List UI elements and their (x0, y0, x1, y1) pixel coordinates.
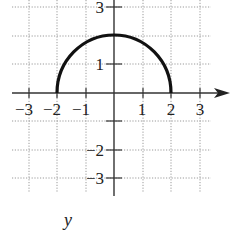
y-tick-label: 1 (96, 55, 105, 74)
x-tick-label: −2 (43, 100, 61, 119)
y-tick-label: −2 (86, 141, 104, 160)
x-tick-label: −3 (15, 100, 33, 119)
caption-variable: y (62, 210, 72, 230)
x-tick-label: 1 (138, 100, 147, 119)
axes (12, 0, 222, 196)
y-tick-label: 3 (96, 0, 105, 17)
x-tick-label: 2 (167, 100, 176, 119)
grid (12, 0, 211, 193)
semicircle-graph: −3 −2 −1 1 2 3 3 1 −2 −3 y (0, 0, 231, 233)
x-tick-label: 3 (196, 100, 205, 119)
x-tick-labels: −3 −2 −1 1 2 3 (15, 100, 204, 119)
x-tick-label: −1 (72, 100, 90, 119)
y-tick-labels: 3 1 −2 −3 (86, 0, 104, 188)
y-tick-label: −3 (86, 169, 104, 188)
